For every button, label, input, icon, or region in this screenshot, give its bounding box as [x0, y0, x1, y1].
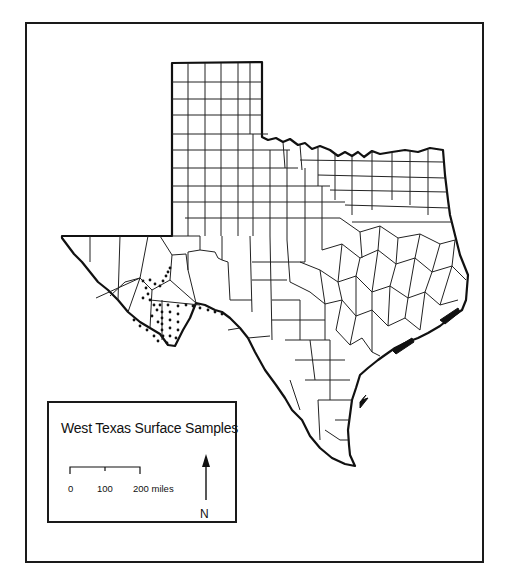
north-label: N: [200, 507, 209, 521]
north-arrow-icon: [201, 454, 211, 500]
scale-label-0: 0: [68, 483, 73, 494]
legend-title: West Texas Surface Samples: [61, 420, 238, 436]
coastal-bays: [360, 308, 460, 408]
scale-bar: [69, 466, 141, 474]
scale-label-100: 100: [97, 483, 113, 494]
sample-dots: [133, 267, 224, 345]
legend-box: West Texas Surface Samples 0 100 200 mil…: [47, 401, 237, 523]
county-lines: [90, 63, 466, 440]
scale-label-200: 200 miles: [133, 483, 174, 494]
